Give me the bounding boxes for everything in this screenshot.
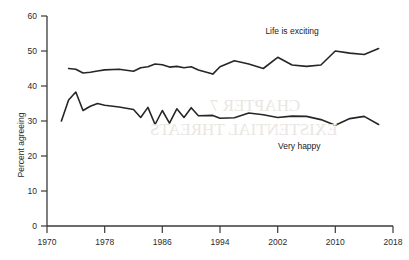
y-tick-label: 60 [28, 11, 38, 21]
y-tick-label: 40 [28, 81, 38, 91]
x-tick-label: 1986 [153, 237, 172, 247]
chart-svg: Percent agreeing 0 10 20 30 40 50 60 197… [0, 0, 409, 260]
y-axis-title: Percent agreeing [16, 112, 26, 177]
series-line-life-is-exciting [69, 49, 379, 75]
series-label-life-is-exciting: Life is exciting [265, 26, 319, 36]
line-chart: CHAPTER 7 EXISTENTIAL THREATS Percent ag… [0, 0, 409, 260]
y-tick-label: 0 [32, 221, 37, 231]
y-tick-label: 30 [28, 116, 38, 126]
x-tick-label: 1978 [95, 237, 114, 247]
x-tick-label: 1994 [211, 237, 230, 247]
y-tick-label: 10 [28, 186, 38, 196]
series-line-very-happy [61, 92, 378, 125]
y-axis-ticks: 0 10 20 30 40 50 60 [28, 11, 47, 231]
x-tick-label: 2018 [384, 237, 403, 247]
x-tick-label: 2002 [268, 237, 287, 247]
x-axis-ticks: 1970 1978 1986 1994 2002 2010 2018 [38, 226, 403, 247]
x-tick-label: 2010 [326, 237, 345, 247]
y-tick-label: 50 [28, 46, 38, 56]
y-tick-label: 20 [28, 151, 38, 161]
series-label-very-happy: Very happy [278, 141, 321, 151]
x-tick-label: 1970 [38, 237, 57, 247]
